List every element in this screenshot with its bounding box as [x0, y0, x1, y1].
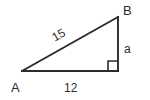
right-angle-marker-icon: [108, 61, 118, 71]
vertex-label-a: A: [11, 81, 20, 94]
right-triangle-figure: A B 15 12 a: [0, 0, 150, 100]
triangle-side-hypotenuse: [22, 17, 118, 71]
vertex-label-b: B: [123, 4, 132, 17]
side-label-base: 12: [64, 82, 77, 94]
side-label-vertical: a: [124, 43, 131, 55]
